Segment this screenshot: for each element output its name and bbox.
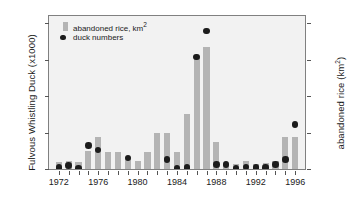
legend-bar-swatch-icon [63, 22, 68, 31]
bar [144, 152, 150, 169]
chart-figure: Fulvous Whistling Duck (x1000) abandoned… [0, 0, 353, 217]
x-axis-tick [79, 171, 80, 175]
y-axis-right-tick [307, 133, 311, 134]
x-axis-tick [275, 171, 276, 175]
x-axis-tick [167, 171, 168, 175]
data-point [233, 165, 240, 169]
bar [194, 58, 200, 169]
bar [282, 137, 288, 169]
data-point [184, 164, 191, 169]
bar [292, 137, 298, 169]
data-point [282, 156, 289, 163]
y-axis-left-title: Fulvous Whistling Duck (x1000) [26, 8, 37, 198]
y-axis-left-tick [45, 96, 49, 97]
bar [135, 161, 141, 169]
x-axis-tick [226, 171, 227, 175]
x-axis-tick-label: 1980 [118, 177, 158, 187]
x-axis-tick [69, 171, 70, 175]
x-axis-tick [138, 171, 139, 175]
x-axis-tick [256, 171, 257, 175]
y-axis-right-tick [307, 60, 311, 61]
y-axis-left-tick [45, 60, 49, 61]
x-axis-tick [295, 171, 296, 175]
x-axis-tick [88, 171, 89, 175]
x-axis-tick-label: 1996 [275, 177, 315, 187]
x-axis-tick [266, 171, 267, 175]
y-axis-right-title-main: abandoned rice (km [335, 64, 346, 150]
bar [184, 114, 190, 169]
x-axis-tick [187, 171, 188, 175]
x-axis-tick [118, 171, 119, 175]
x-axis-tick [157, 171, 158, 175]
y-axis-right-title-tail: ) [335, 57, 346, 60]
y-axis-left-tick [45, 23, 49, 24]
bar [164, 133, 170, 169]
data-point [174, 165, 181, 169]
bar [154, 133, 160, 169]
data-point [75, 165, 82, 169]
x-axis-tick [246, 171, 247, 175]
legend-dot-swatch-wrap [63, 35, 68, 41]
y-axis-left-tick [45, 133, 49, 134]
x-axis-tick [147, 171, 148, 175]
data-point [272, 161, 279, 168]
legend-dot-swatch-icon [60, 35, 66, 41]
x-axis-tick-label: 1988 [196, 177, 236, 187]
x-axis-tick [236, 171, 237, 175]
data-point [56, 164, 63, 169]
x-axis-tick-label: 1992 [236, 177, 276, 187]
legend-item-abandoned-rice: abandoned rice, km2 [63, 21, 147, 32]
data-point [213, 161, 220, 168]
x-axis-tick-label: 1976 [78, 177, 118, 187]
data-point [253, 164, 260, 169]
data-point [243, 164, 250, 169]
x-axis-tick [207, 171, 208, 175]
x-axis-tick [197, 171, 198, 175]
x-axis-tick-label: 1972 [39, 177, 79, 187]
y-axis-right-tick [307, 169, 311, 170]
data-point [262, 164, 269, 169]
bar [115, 152, 121, 169]
bar [95, 137, 101, 169]
data-point [65, 162, 72, 169]
data-point [292, 121, 299, 128]
data-point [193, 54, 200, 61]
legend-item-label: duck numbers [73, 32, 123, 43]
x-axis-tick [216, 171, 217, 175]
x-axis-tick-label: 1984 [157, 177, 197, 187]
y-axis-left-tick [45, 169, 49, 170]
x-axis-tick [177, 171, 178, 175]
plot-area: 010203040 04080120160 197219761980198419… [48, 15, 306, 170]
x-axis-tick [285, 171, 286, 175]
bar [203, 47, 209, 169]
data-point [203, 28, 210, 35]
x-axis-tick [59, 171, 60, 175]
data-point [85, 142, 92, 149]
chart-legend: abandoned rice, km2 duck numbers [63, 21, 147, 43]
x-axis-tick [128, 171, 129, 175]
x-axis-tick [108, 171, 109, 175]
bar [105, 152, 111, 169]
y-axis-right-title-superscript: 2 [334, 60, 341, 64]
bar [85, 151, 91, 169]
y-axis-right-title: abandoned rice (km2) [334, 8, 346, 198]
data-point [223, 161, 230, 168]
y-axis-right-tick [307, 96, 311, 97]
y-axis-right-tick [307, 23, 311, 24]
x-axis-tick [98, 171, 99, 175]
